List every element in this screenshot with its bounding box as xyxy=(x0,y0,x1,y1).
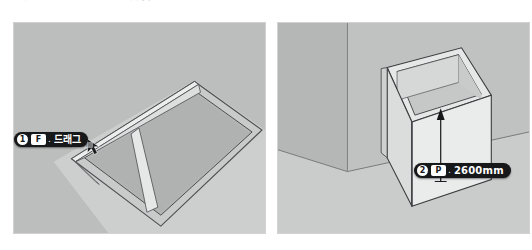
callout-step-1[interactable]: 1 F . 드래그 xyxy=(14,132,88,147)
scene-extruded-walls xyxy=(278,23,529,233)
step-number-badge: 1 xyxy=(17,134,28,145)
back-wall-left xyxy=(278,23,347,172)
callout-separator: . xyxy=(448,166,451,175)
callout-step-2[interactable]: 2 P . 2600mm xyxy=(414,163,511,178)
panel-right-extruded-walls[interactable] xyxy=(277,22,530,234)
callout-label: 드래그 xyxy=(54,135,82,145)
box-wall-left-edge xyxy=(381,68,387,158)
callout-label: 2600mm xyxy=(454,166,504,176)
scene-floor-rectangle xyxy=(14,23,265,233)
callout-separator: . xyxy=(48,135,51,144)
keycap-f-icon: F xyxy=(31,134,46,145)
floor-rectangle-illustration xyxy=(14,23,265,233)
extruded-walls-illustration xyxy=(278,23,529,233)
step-number-badge: 2 xyxy=(417,165,428,176)
panel-left-floor-rectangle[interactable]: 꼭지점에서 xyxy=(13,22,266,234)
keycap-p-icon: P xyxy=(431,165,446,176)
figure-row: 꼭지점에서 1 F . 드래그 xyxy=(0,0,532,250)
